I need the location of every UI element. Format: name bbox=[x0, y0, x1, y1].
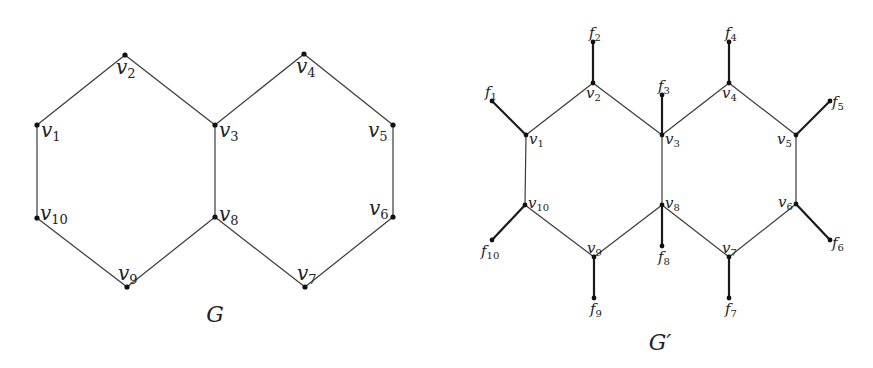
node-label-v3: v3 bbox=[219, 118, 239, 144]
node-label-v8: v8 bbox=[665, 194, 680, 213]
pendant-edge-v6-f6 bbox=[796, 204, 830, 240]
node-label-v8: v8 bbox=[219, 202, 239, 228]
node-label-v10: v10 bbox=[528, 194, 549, 213]
edge-v3-v4 bbox=[662, 83, 729, 135]
edge-v8-v9 bbox=[594, 205, 662, 257]
node-v8 bbox=[660, 203, 665, 208]
graph-g-prime: v1v2v3v4v5v6v7v8v9v10f1f2f3f4f5f6f7f8f9f… bbox=[480, 24, 844, 355]
node-v10 bbox=[523, 203, 528, 208]
node-label-v4: v4 bbox=[296, 54, 316, 80]
node-v1 bbox=[524, 133, 529, 138]
node-label-f2: f2 bbox=[588, 24, 601, 43]
node-label-v3: v3 bbox=[665, 130, 680, 149]
node-v3 bbox=[660, 133, 665, 138]
node-v3 bbox=[212, 122, 217, 127]
node-v8 bbox=[212, 214, 217, 219]
edge-v9-v10 bbox=[525, 205, 594, 257]
node-label-v5: v5 bbox=[777, 130, 792, 149]
edge-v1-v2 bbox=[526, 83, 593, 135]
node-label-f1: f1 bbox=[484, 83, 497, 102]
edge-v3-v4 bbox=[215, 54, 304, 125]
graph-figure: v1v2v3v4v5v6v7v8v9v10G v1v2v3v4v5v6v7v8v… bbox=[0, 0, 873, 368]
node-label-v1: v1 bbox=[41, 118, 61, 144]
edge-v8-v9 bbox=[127, 217, 215, 287]
edge-v7-v8 bbox=[215, 217, 305, 287]
node-label-f5: f5 bbox=[831, 93, 844, 112]
node-label-f4: f4 bbox=[724, 24, 737, 43]
node-label-f7: f7 bbox=[724, 300, 737, 319]
node-v10 bbox=[34, 215, 39, 220]
edge-v1-v2 bbox=[37, 55, 125, 125]
node-v6 bbox=[390, 214, 395, 219]
node-label-v7: v7 bbox=[722, 239, 737, 258]
edge-v10-v1 bbox=[525, 135, 526, 205]
pendant-edge-v10-f10 bbox=[492, 205, 525, 240]
node-v1 bbox=[34, 122, 39, 127]
node-label-f8: f8 bbox=[657, 248, 670, 267]
node-label-f9: f9 bbox=[589, 300, 602, 319]
graph-caption-G_prime: G′ bbox=[649, 330, 672, 355]
node-label-v9: v9 bbox=[587, 239, 602, 258]
edge-v4-v5 bbox=[304, 54, 393, 125]
node-label-v7: v7 bbox=[297, 261, 317, 287]
edge-v2-v3 bbox=[593, 83, 662, 135]
node-v7 bbox=[302, 284, 307, 289]
node-label-v6: v6 bbox=[369, 196, 389, 222]
node-f10 bbox=[490, 238, 495, 243]
node-v6 bbox=[794, 202, 799, 207]
pendant-edge-v1-f1 bbox=[492, 101, 526, 135]
edge-v9-v10 bbox=[37, 218, 127, 287]
node-label-v6: v6 bbox=[778, 193, 793, 212]
node-label-v1: v1 bbox=[529, 130, 544, 149]
graph-caption-G: G bbox=[206, 302, 224, 327]
pendant-edge-v5-f5 bbox=[796, 101, 830, 135]
edge-v7-v8 bbox=[662, 205, 729, 257]
edge-v4-v5 bbox=[729, 83, 796, 135]
node-label-v10: v10 bbox=[40, 201, 68, 227]
node-label-v5: v5 bbox=[368, 118, 388, 144]
edge-v6-v7 bbox=[305, 217, 393, 287]
node-v5 bbox=[390, 122, 395, 127]
node-label-f3: f3 bbox=[657, 77, 670, 96]
node-label-v9: v9 bbox=[118, 261, 138, 287]
graph-g: v1v2v3v4v5v6v7v8v9v10G bbox=[34, 51, 395, 327]
node-label-f6: f6 bbox=[831, 234, 844, 253]
node-label-v2: v2 bbox=[116, 55, 136, 81]
node-v5 bbox=[794, 133, 799, 138]
node-label-f10: f10 bbox=[480, 242, 499, 261]
edge-v2-v3 bbox=[125, 55, 215, 125]
